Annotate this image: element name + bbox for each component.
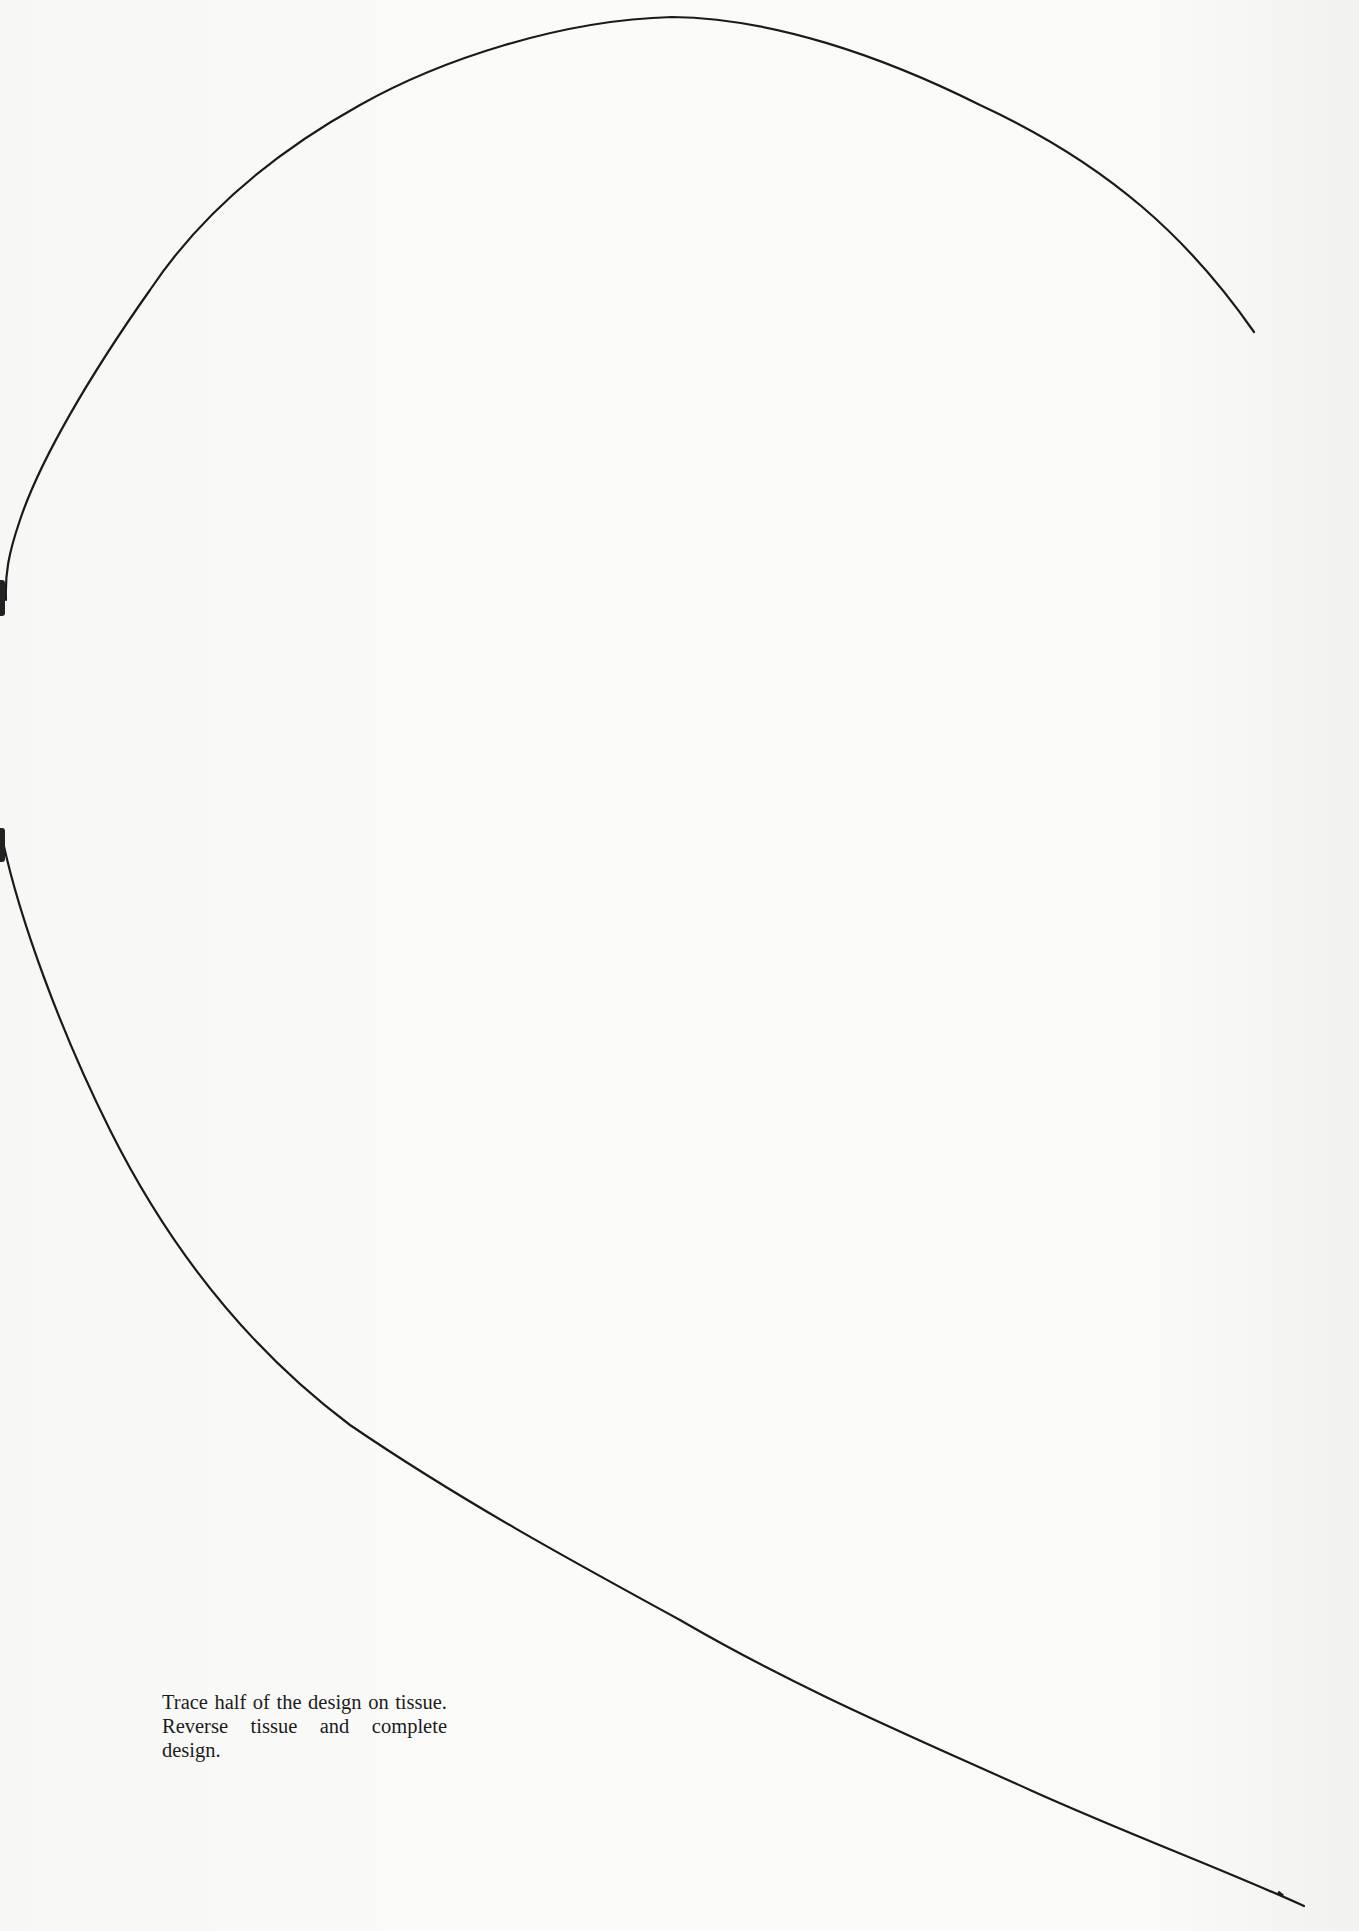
fold-mark-upper (0, 580, 5, 616)
pattern-outline (0, 0, 1359, 1931)
instructions-body: Trace half of the design on tissue. Reve… (162, 1691, 447, 1761)
instructions-text: Trace half of the design on tissue. Reve… (162, 1690, 447, 1762)
fold-mark-lower (0, 828, 5, 862)
upper-curve (6, 17, 1254, 600)
pattern-page: Trace half of the design on tissue. Reve… (0, 0, 1359, 1931)
